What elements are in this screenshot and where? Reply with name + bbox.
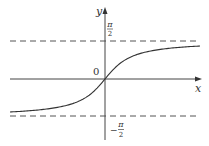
upper-asymptote-label: π 2 [106,20,113,38]
svg-text:2: 2 [119,131,123,139]
x-axis-arrow-icon [195,77,202,82]
lower-asymptote-label: − π 2 [110,120,124,139]
y-axis-label: y [95,5,103,18]
origin-label: 0 [93,66,99,77]
x-axis-label: x [195,82,202,95]
svg-text:−: − [110,125,118,135]
y-axis-arrow-icon [103,7,108,14]
svg-text:2: 2 [108,30,112,38]
arctan-chart: y x 0 π 2 − π 2 [0,0,209,146]
svg-text:π: π [117,120,124,129]
svg-text:π: π [106,20,113,29]
